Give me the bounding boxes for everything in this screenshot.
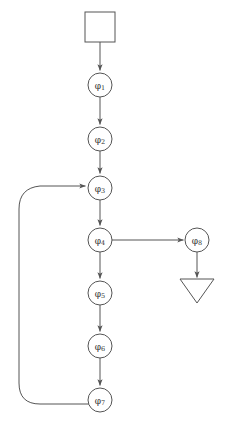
node-phi6[interactable]: φ6	[88, 334, 112, 358]
diagram-canvas: φ1 φ2 φ3 φ4 φ5	[0, 0, 229, 428]
node-start-square[interactable]	[85, 12, 115, 42]
node-phi2[interactable]: φ2	[88, 127, 112, 151]
node-phi1[interactable]: φ1	[88, 73, 112, 97]
node-phi4[interactable]: φ4	[88, 228, 112, 252]
diagram-svg: φ1 φ2 φ3 φ4 φ5	[0, 0, 229, 428]
node-phi3[interactable]: φ3	[88, 176, 112, 200]
node-end-triangle[interactable]	[180, 279, 214, 303]
node-phi8[interactable]: φ8	[185, 228, 209, 252]
node-phi7[interactable]: φ7	[88, 388, 112, 412]
node-phi5[interactable]: φ5	[88, 281, 112, 305]
edge-phi7-to-phi3-feedback	[19, 186, 90, 404]
node-layer: φ1 φ2 φ3 φ4 φ5	[85, 12, 214, 412]
